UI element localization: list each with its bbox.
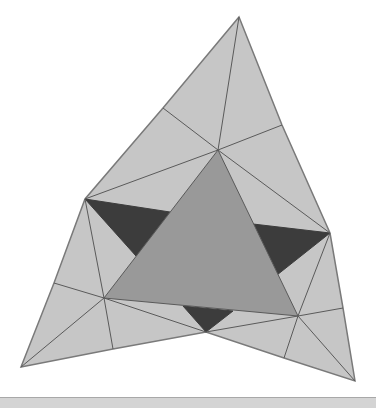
geometric-triangulation-figure [0, 0, 376, 397]
bottom-bar [0, 397, 376, 408]
